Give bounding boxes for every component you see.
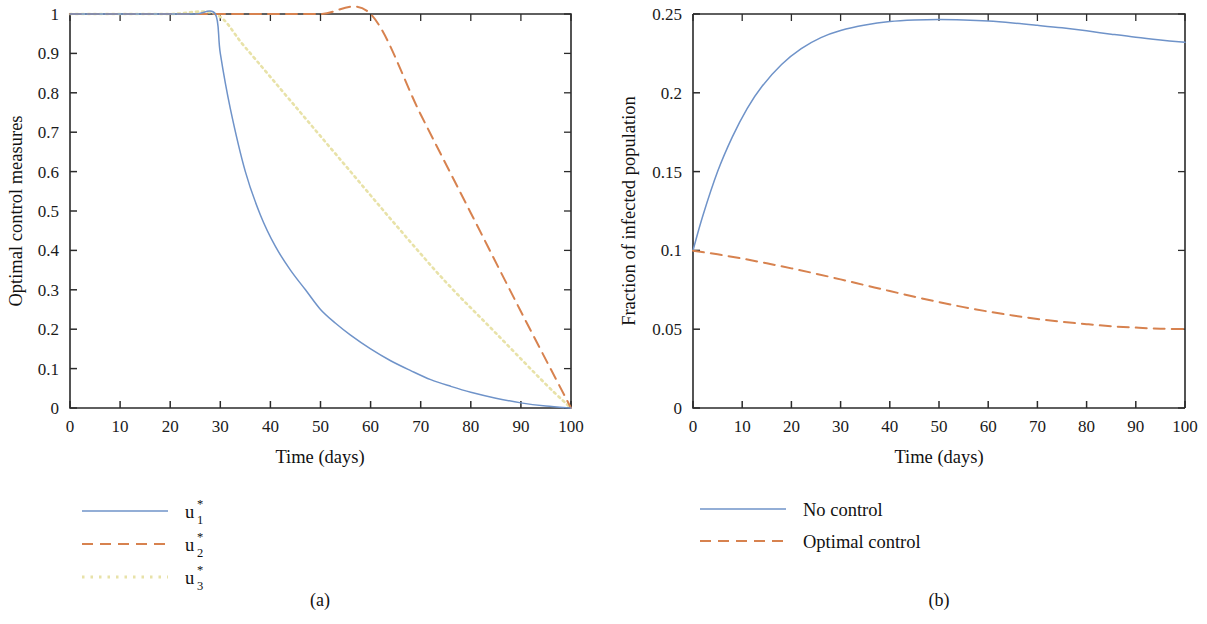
series-u3 [70,12,571,408]
x-tick-label: 50 [931,417,948,436]
panel-a-caption: (a) [310,590,330,611]
panel-b-tick-labels: 010203040506070809010000.050.10.150.20.2… [652,5,1198,436]
panel-a: 010203040506070809010000.10.20.30.40.50.… [0,0,603,624]
legend-label-u3-sub: 3 [197,579,203,593]
axis-left-bottom [693,14,1185,408]
y-tick-label: 0.2 [661,84,682,103]
y-tick-label: 0 [51,399,60,418]
y-tick-label: 0.6 [38,163,59,182]
x-tick-label: 20 [162,417,179,436]
panel-b-ylabel: Fraction of infected population [619,96,639,326]
axis-left-bottom [70,14,571,408]
figure-container: 010203040506070809010000.10.20.30.40.50.… [0,0,1207,624]
x-tick-label: 50 [312,417,329,436]
x-tick-label: 10 [112,417,129,436]
x-tick-label: 30 [832,417,849,436]
axis-top-right [70,14,571,408]
panel-b-legend: No control Optimal control [700,500,921,552]
axis-top-right [693,14,1185,408]
panel-b-plot: 010203040506070809010000.050.10.150.20.2… [603,0,1207,624]
x-tick-label: 30 [212,417,229,436]
x-tick-label: 100 [558,417,584,436]
legend-label-no-control: No control [803,500,883,520]
y-tick-label: 0.8 [38,84,59,103]
series-optimal-control [693,251,1185,329]
panel-a-ticks [70,14,571,408]
panel-a-xlabel: Time (days) [275,447,364,468]
panel-b: 010203040506070809010000.050.10.150.20.2… [603,0,1207,624]
x-tick-label: 100 [1172,417,1198,436]
y-tick-label: 1 [51,5,60,24]
series-u2 [70,7,571,408]
x-tick-label: 80 [1078,417,1095,436]
y-tick-label: 0.1 [38,360,59,379]
panel-b-xlabel: Time (days) [894,447,983,468]
x-tick-label: 20 [783,417,800,436]
legend-label-u3-sup: * [197,563,203,577]
panel-a-plot: 010203040506070809010000.10.20.30.40.50.… [0,0,603,624]
series-u1 [70,11,571,408]
legend-label-u3-base: u [185,568,194,588]
panel-b-ticks [693,14,1185,408]
y-tick-label: 0 [674,399,683,418]
x-tick-label: 60 [980,417,997,436]
x-tick-label: 0 [689,417,698,436]
x-tick-label: 90 [1127,417,1144,436]
legend-label-u1-sup: * [197,497,203,511]
x-tick-label: 60 [362,417,379,436]
y-tick-label: 0.15 [652,163,682,182]
panel-a-tick-labels: 010203040506070809010000.10.20.30.40.50.… [38,5,584,436]
legend-label-u1-base: u [185,502,194,522]
x-tick-label: 40 [881,417,898,436]
legend-label-u1-sub: 1 [197,513,203,527]
y-tick-label: 0.3 [38,281,59,300]
y-tick-label: 0.9 [38,44,59,63]
y-tick-label: 0.5 [38,202,59,221]
legend-label-u2-sup: * [197,530,203,544]
panel-a-legend: u 1 * u 2 * u 3 * [82,497,203,593]
x-tick-label: 40 [262,417,279,436]
x-tick-label: 70 [412,417,429,436]
y-tick-label: 0.2 [38,320,59,339]
y-tick-label: 0.1 [661,241,682,260]
legend-label-optimal-control: Optimal control [803,532,921,552]
x-tick-label: 80 [462,417,479,436]
panel-b-caption: (b) [929,590,950,611]
panel-a-ylabel: Optimal control measures [6,115,26,306]
series-no-control [693,20,1185,251]
x-tick-label: 90 [512,417,529,436]
y-tick-label: 0.7 [38,123,60,142]
y-tick-label: 0.05 [652,320,682,339]
x-tick-label: 10 [734,417,751,436]
x-tick-label: 70 [1029,417,1046,436]
x-tick-label: 0 [66,417,75,436]
y-tick-label: 0.4 [38,241,60,260]
legend-label-u2-base: u [185,535,194,555]
y-tick-label: 0.25 [652,5,682,24]
legend-label-u2-sub: 2 [197,546,203,560]
